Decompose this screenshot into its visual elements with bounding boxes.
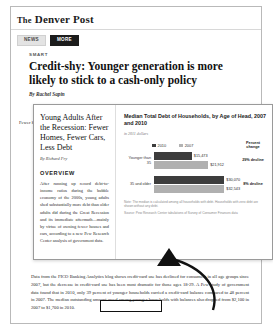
- masthead-the: The: [17, 15, 32, 25]
- percent-change-younger: 29% decline: [240, 158, 266, 163]
- masthead-title: The Denver Post: [17, 13, 261, 25]
- legend-item-2010: 2010: [152, 143, 166, 148]
- category-label-1: 35 and older: [124, 182, 154, 187]
- chart-source: Source: Pew Research Center tabulations …: [124, 211, 266, 215]
- bar-group: 35 and older $30,070 $32,543 8% decline: [124, 176, 266, 194]
- report-byline: By Richard Fry: [40, 156, 109, 161]
- report-title: Young Adults After the Recession: Fewer …: [40, 113, 109, 153]
- bar-2010-older: [154, 176, 224, 184]
- masthead: The Denver Post: [11, 7, 261, 30]
- bar-2007-younger: [154, 161, 208, 169]
- bar-row: $21,912: [154, 161, 240, 169]
- bar-group-bars: $15,473 $21,912: [154, 152, 240, 170]
- percent-change-older: 8% decline: [240, 182, 266, 187]
- legend-label-2010: 2010: [158, 143, 167, 148]
- chart-subtitle: in 2011 dollars: [124, 131, 266, 136]
- legend-label-2007: 2007: [185, 143, 194, 148]
- report-overlay-card: Young Adults After the Recession: Fewer …: [33, 104, 273, 260]
- bar-group-bars: $30,070 $32,543: [154, 176, 240, 194]
- article-headline: Credit-shy: Younger generation is more l…: [29, 59, 251, 87]
- navigation-bar[interactable]: NEWS MORE: [11, 30, 261, 48]
- article-kicker: SMART: [29, 52, 261, 57]
- chart-title: Median Total Debt of Households, by Age …: [124, 113, 266, 128]
- nav-tab-news[interactable]: NEWS: [17, 35, 46, 46]
- bar-value-2010-younger: $15,473: [194, 154, 208, 158]
- chart-plot-area: Younger than 35 $15,473 $21,912 29% decl…: [124, 152, 266, 194]
- legend-item-2007: 2007: [179, 143, 193, 148]
- chart-legend: 2010 2007 Percent change: [124, 142, 266, 150]
- bar-2010-younger: [154, 152, 192, 160]
- legend-swatch-icon-2010: [152, 144, 156, 148]
- overview-heading: OVERVIEW: [40, 170, 109, 176]
- chart-note: Note: The median is calculated among all…: [124, 200, 266, 209]
- masthead-name: Denver Post: [35, 13, 94, 25]
- overview-text: After running up record debt-to-income r…: [40, 180, 109, 244]
- percent-change-header: Percent change: [240, 141, 266, 150]
- bar-row: $30,070: [154, 176, 240, 184]
- bar-2007-older: [154, 185, 224, 193]
- article-byline: By Rachel Sapin: [29, 91, 261, 97]
- chart-panel: Median Total Debt of Households, by Age …: [116, 105, 272, 259]
- bar-value-2007-older: $32,543: [226, 187, 240, 191]
- bar-value-2010-older: $30,070: [226, 178, 240, 182]
- bar-value-2007-younger: $21,912: [210, 163, 224, 167]
- article-lower-paragraph: Data from the FICO Banking Analytics blo…: [31, 273, 249, 312]
- bar-group: Younger than 35 $15,473 $21,912 29% decl…: [124, 152, 266, 170]
- legend-swatch-icon-2007: [179, 144, 183, 148]
- category-label-0: Younger than 35: [124, 156, 154, 165]
- bar-row: $15,473: [154, 152, 240, 160]
- nav-tab-more[interactable]: MORE: [50, 35, 79, 46]
- bar-row: $32,543: [154, 185, 240, 193]
- report-left-column: Young Adults After the Recession: Fewer …: [34, 105, 116, 259]
